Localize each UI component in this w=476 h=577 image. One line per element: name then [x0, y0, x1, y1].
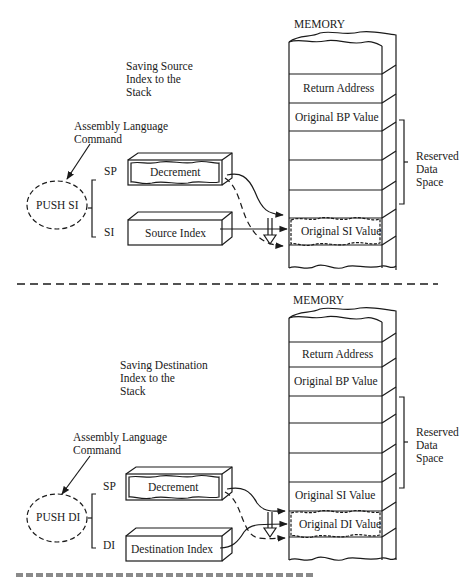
memory-cell-return-address: Return Address — [303, 82, 374, 95]
diagram-canvas — [0, 0, 476, 577]
command-label: PUSH SI — [36, 199, 79, 212]
register-name-sp: SP — [104, 165, 117, 178]
register-box-source-index: Source Index — [145, 227, 206, 240]
register-box-decrement: Decrement — [148, 481, 198, 494]
panel-title: Saving Source Index to the Stack — [126, 60, 193, 99]
register-name-si: SI — [104, 226, 114, 239]
memory-cell-original-si: Original SI Value — [301, 225, 381, 238]
memory-cell-original-bp: Original BP Value — [295, 111, 379, 124]
register-box-decrement: Decrement — [150, 166, 200, 179]
memory-title: MEMORY — [294, 18, 345, 31]
memory-cell-original-si: Original SI Value — [295, 489, 375, 502]
register-name-di: DI — [103, 539, 115, 552]
command-label: PUSH DI — [36, 511, 80, 524]
memory-cell-original-bp: Original BP Value — [294, 375, 378, 388]
reserved-data-space-label: Reserved Data Space — [416, 150, 459, 189]
register-box-destination-index: Destination Index — [131, 543, 213, 556]
figure-caption-clipped — [16, 572, 316, 577]
register-name-sp: SP — [103, 480, 116, 493]
memory-cell-original-di: Original DI Value — [299, 518, 381, 531]
data-flow-arrows-bottom — [220, 488, 287, 548]
annotation-label: Assembly Language Command — [74, 120, 168, 146]
memory-title: MEMORY — [293, 294, 344, 307]
memory-cell-return-address: Return Address — [302, 348, 373, 361]
reserved-data-space-label: Reserved Data Space — [416, 426, 459, 465]
panel-title: Saving Destination Index to the Stack — [120, 359, 208, 398]
annotation-label: Assembly Language Command — [73, 431, 167, 457]
data-flow-arrows-top — [220, 174, 287, 246]
